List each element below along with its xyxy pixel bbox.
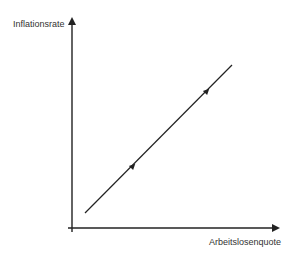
x-axis-label: Arbeitslosenquote — [209, 237, 281, 247]
phillips-line — [85, 65, 232, 213]
y-axis-label: Inflationsrate — [13, 19, 65, 29]
direction-arrow-icon — [129, 162, 137, 170]
diagram-canvas — [0, 0, 295, 262]
